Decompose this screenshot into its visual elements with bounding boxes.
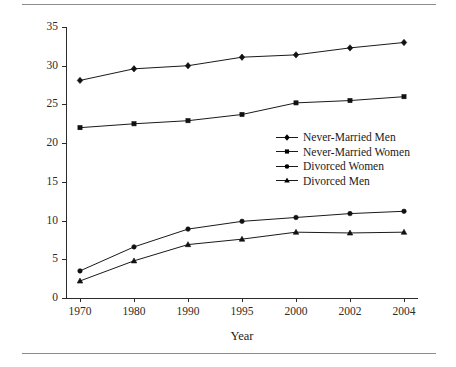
data-point (348, 211, 353, 216)
data-point (239, 54, 245, 60)
x-tick (350, 298, 351, 302)
legend: Never-Married MenNever-Married WomenDivo… (276, 130, 410, 188)
legend-item: Divorced Women (276, 159, 410, 174)
x-tick-label: 2002 (325, 306, 375, 318)
legend-label: Divorced Women (303, 159, 384, 174)
data-point (78, 269, 83, 274)
data-point (402, 95, 406, 99)
data-point (131, 66, 137, 72)
y-tick-label: 5 (18, 253, 58, 265)
data-point (402, 209, 407, 214)
x-tick-label: 1980 (109, 306, 159, 318)
y-tick-label: 20 (18, 137, 58, 149)
y-tick-label: 30 (18, 60, 58, 72)
data-point (186, 227, 191, 232)
x-tick-label: 2000 (271, 306, 321, 318)
data-point (293, 52, 299, 58)
data-point (185, 63, 191, 69)
legend-item: Never-Married Men (276, 130, 410, 145)
data-point (294, 215, 299, 220)
square-marker-icon (276, 146, 298, 157)
top-divider-rule (22, 4, 436, 5)
x-tick-label: 1970 (55, 306, 105, 318)
y-tick-label: 15 (18, 176, 58, 188)
series-never-married-women (78, 95, 406, 130)
bottom-divider-rule (22, 353, 436, 354)
data-point (401, 39, 407, 45)
y-tick-label: 25 (18, 98, 58, 110)
legend-label: Never-Married Women (303, 145, 410, 160)
data-point (347, 45, 353, 51)
legend-label: Divorced Men (303, 174, 370, 189)
legend-item: Divorced Men (276, 174, 410, 189)
figure: 05101520253035 1970198019901995200020022… (0, 0, 456, 367)
data-point (77, 77, 83, 83)
x-tick-label: 2004 (379, 306, 429, 318)
x-tick (80, 298, 81, 302)
x-tick (134, 298, 135, 302)
diamond-marker-icon (276, 132, 298, 143)
circle-marker-icon (276, 161, 298, 172)
data-point (186, 119, 190, 123)
data-point (78, 126, 82, 130)
y-tick-label: 35 (18, 21, 58, 33)
triangle-marker-icon (276, 175, 298, 186)
y-tick-label: 10 (18, 215, 58, 227)
legend-item: Never-Married Women (276, 145, 410, 160)
series-divorced-men (77, 229, 407, 283)
series-never-married-men (77, 39, 407, 83)
y-tick (62, 298, 66, 299)
x-tick (296, 298, 297, 302)
x-tick-label: 1995 (217, 306, 267, 318)
x-tick (242, 298, 243, 302)
x-tick (404, 298, 405, 302)
data-point (294, 101, 298, 105)
x-tick (188, 298, 189, 302)
data-point (240, 219, 245, 224)
data-point (240, 112, 244, 116)
y-tick-label: 0 (18, 292, 58, 304)
data-point (348, 98, 352, 102)
data-point (132, 122, 136, 126)
data-point (132, 245, 137, 250)
legend-label: Never-Married Men (303, 130, 396, 145)
x-axis-title: Year (66, 329, 418, 344)
x-tick-label: 1990 (163, 306, 213, 318)
